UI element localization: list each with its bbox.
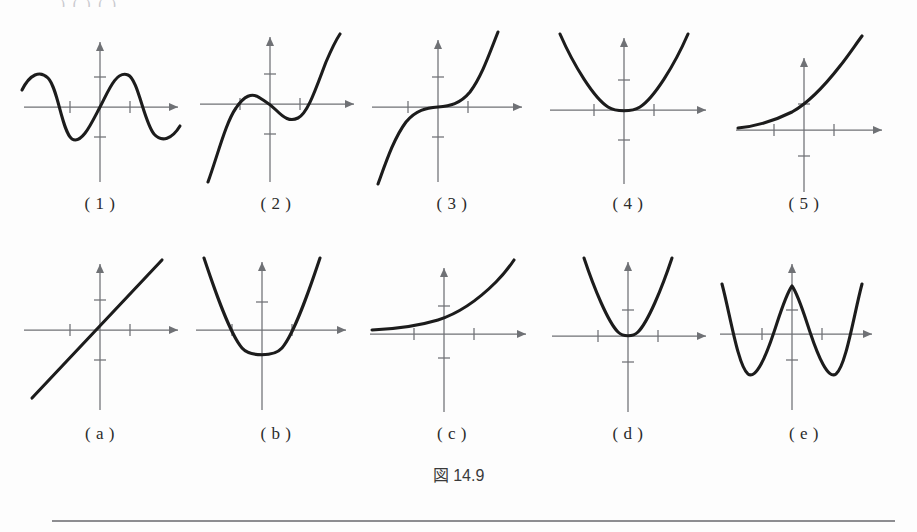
- plot-straight-line: [10, 252, 190, 422]
- panel-label-e: ( e ): [714, 424, 894, 444]
- panel-label-a: ( a ): [10, 424, 190, 444]
- figure-panel-5: ( 5 ): [714, 22, 894, 214]
- figure-panel-grid: ( 1 ) ( 2 ): [0, 0, 917, 532]
- plot-cosine-wave: [714, 252, 894, 422]
- figure-panel-a: ( a ): [10, 252, 190, 444]
- plot-sine-wave: [10, 22, 190, 192]
- plot-cubic-turning: [186, 22, 366, 192]
- panel-label-1: ( 1 ): [10, 194, 190, 214]
- figure-caption: 図 14.9: [0, 462, 917, 486]
- figure-panel-2: ( 2 ): [186, 22, 366, 214]
- figure-panel-e: ( e ): [714, 252, 894, 444]
- figure-caption-prefix: 図: [433, 466, 449, 485]
- panel-label-c: ( c ): [362, 424, 542, 444]
- figure-panel-c: ( c ): [362, 252, 542, 444]
- panel-label-4: ( 4 ): [538, 194, 718, 214]
- figure-panel-1: ( 1 ): [10, 22, 190, 214]
- figure-caption-number: 14.9: [453, 467, 484, 484]
- plot-exponential-flat: [362, 252, 542, 422]
- figure-panel-3: ( 3 ): [362, 22, 542, 214]
- plot-parabola-wide: [538, 22, 718, 192]
- figure-panel-d: ( d ): [538, 252, 718, 444]
- panel-label-5: ( 5 ): [714, 194, 894, 214]
- plot-parabola-shifted: [186, 252, 366, 422]
- plot-parabola-narrow: [538, 252, 718, 422]
- panel-label-b: ( b ): [186, 424, 366, 444]
- figure-panel-4: ( 4 ): [538, 22, 718, 214]
- panel-label-d: ( d ): [538, 424, 718, 444]
- plot-cubic-inflection: [362, 22, 542, 192]
- panel-label-2: ( 2 ): [186, 194, 366, 214]
- panel-label-3: ( 3 ): [362, 194, 542, 214]
- figure-panel-b: ( b ): [186, 252, 366, 444]
- horizontal-rule: [52, 520, 895, 522]
- plot-exponential-growth: [714, 22, 894, 192]
